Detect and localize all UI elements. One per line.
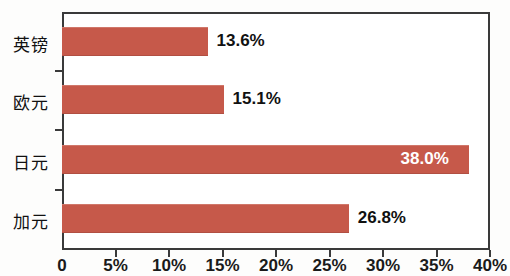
bar-value-label: 38.0% — [401, 149, 449, 169]
bar-value-label: 13.6% — [217, 31, 265, 51]
bar-value-label: 15.1% — [233, 89, 281, 109]
bars-layer: 13.6%15.1%38.0%26.8% — [0, 0, 510, 276]
bar-value-label: 26.8% — [358, 208, 406, 228]
bar-chart: 英镑 欧元 日元 加元 05%10%15%20%25%30%35%40% 13.… — [0, 0, 510, 276]
bar — [62, 85, 224, 114]
bar — [62, 27, 208, 56]
bar — [62, 204, 349, 233]
